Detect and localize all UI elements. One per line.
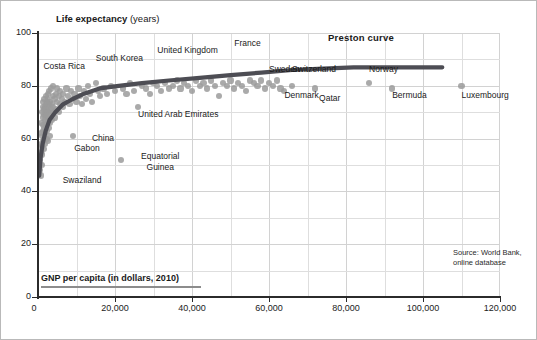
scatter-point (70, 133, 76, 139)
scatter-point (66, 101, 72, 107)
scatter-point (51, 114, 57, 120)
scatter-point (216, 93, 222, 99)
scatter-point (189, 88, 195, 94)
x-tick (192, 297, 193, 302)
y-tick-label: 20 (3, 238, 31, 248)
scatter-point (123, 91, 129, 97)
x-axis-title: GNP per capita (in dollars, 2010) (41, 273, 179, 285)
y-tick-label: 40 (3, 185, 31, 195)
y-tick (32, 191, 38, 192)
x-tick-label: 100,000 (393, 303, 453, 313)
x-tick-label: 20,000 (85, 303, 145, 313)
y-tick (32, 297, 38, 298)
annotation-china: China (92, 133, 114, 144)
source-line-1: Source: World Bank, (453, 248, 522, 258)
y-tick (32, 244, 38, 245)
scatter-point (39, 151, 45, 157)
scatter-point (46, 133, 52, 139)
scatter-point (97, 93, 103, 99)
scatter-point (87, 91, 93, 97)
scatter-point (118, 157, 124, 163)
gridline-y-10 (38, 271, 500, 272)
y-tick-label: 100 (3, 27, 31, 37)
y-axis-title-unit: (years) (130, 13, 160, 24)
annotation-south-korea: South Korea (96, 53, 143, 64)
gridline-y-100 (38, 33, 500, 34)
annotation-bermuda: Bermuda (392, 90, 427, 101)
scatter-point (458, 83, 464, 89)
scatter-point (56, 109, 62, 115)
scatter-point (274, 77, 280, 83)
x-axis-title-underline (41, 286, 201, 288)
scatter-point (46, 125, 52, 131)
x-tick-label: 120,000 (470, 303, 530, 313)
scatter-point (258, 77, 264, 83)
scatter-point (112, 88, 118, 94)
gridline-y-40 (38, 191, 500, 192)
preston-curve-figure: 020406080100 020,00040,00060,00080,00010… (0, 0, 537, 340)
annotation-preston-curve: Preston curve (328, 32, 394, 43)
annotation-equatorial-guinea: Equatorial Guinea (134, 151, 186, 172)
gridline-y-70 (38, 112, 500, 113)
scatter-point (104, 91, 110, 97)
scatter-point (224, 83, 230, 89)
scatter-point (147, 91, 153, 97)
scatter-point (45, 138, 51, 144)
scatter-point (270, 83, 276, 89)
scatter-point (262, 85, 268, 91)
x-tick (115, 297, 116, 302)
gridline-y-20 (38, 244, 500, 245)
y-tick (32, 33, 38, 34)
annotation-costa-rica: Costa Rica (43, 61, 85, 72)
x-tick (423, 297, 424, 302)
source-line-2: online database (453, 258, 522, 268)
annotation-swaziland: Swaziland (63, 175, 102, 186)
scatter-point (79, 101, 85, 107)
x-tick-label: 0 (4, 303, 64, 313)
annotation-united-arab-emirates: United Arab Emirates (138, 109, 218, 120)
annotation-gabon: Gabon (74, 143, 100, 154)
annotation-switzerland: Switzerland (292, 64, 336, 75)
scatter-point (85, 83, 91, 89)
annotation-denmark: Denmark (284, 90, 318, 101)
source-note: Source: World Bank, online database (453, 248, 522, 268)
y-axis-title-main: Life expectancy (56, 13, 127, 24)
x-tick-label: 60,000 (239, 303, 299, 313)
scatter-point (289, 83, 295, 89)
y-tick-label: 80 (3, 80, 31, 90)
scatter-point (93, 80, 99, 86)
x-tick (500, 297, 501, 302)
annotation-france: France (234, 38, 260, 49)
x-tick-label: 40,000 (162, 303, 222, 313)
scatter-point (89, 99, 95, 105)
scatter-point (227, 77, 233, 83)
x-tick (269, 297, 270, 302)
annotation-norway: Norway (369, 64, 398, 75)
scatter-point (170, 83, 176, 89)
scatter-point (204, 85, 210, 91)
gridline-y-30 (38, 218, 500, 219)
x-tick-label: 80,000 (316, 303, 376, 313)
annotation-qatar: Qatar (319, 93, 340, 104)
annotation-united-kingdom: United Kingdom (157, 45, 217, 56)
y-axis-line (37, 31, 39, 299)
scatter-point (212, 83, 218, 89)
scatter-point (174, 77, 180, 83)
y-tick (32, 86, 38, 87)
scatter-point (131, 88, 137, 94)
y-axis-title: Life expectancy (years) (56, 13, 160, 24)
annotation-luxembourg: Luxembourg (462, 90, 509, 101)
scatter-point (158, 88, 164, 94)
scatter-point (177, 85, 183, 91)
scatter-point (254, 83, 260, 89)
scatter-point (243, 88, 249, 94)
x-tick (346, 297, 347, 302)
y-tick-label: 0 (3, 291, 31, 301)
scatter-point (41, 146, 47, 152)
gridline-y-50 (38, 165, 500, 166)
scatter-point (231, 85, 237, 91)
scatter-point (38, 162, 44, 168)
y-tick (32, 139, 38, 140)
y-tick-label: 60 (3, 133, 31, 143)
